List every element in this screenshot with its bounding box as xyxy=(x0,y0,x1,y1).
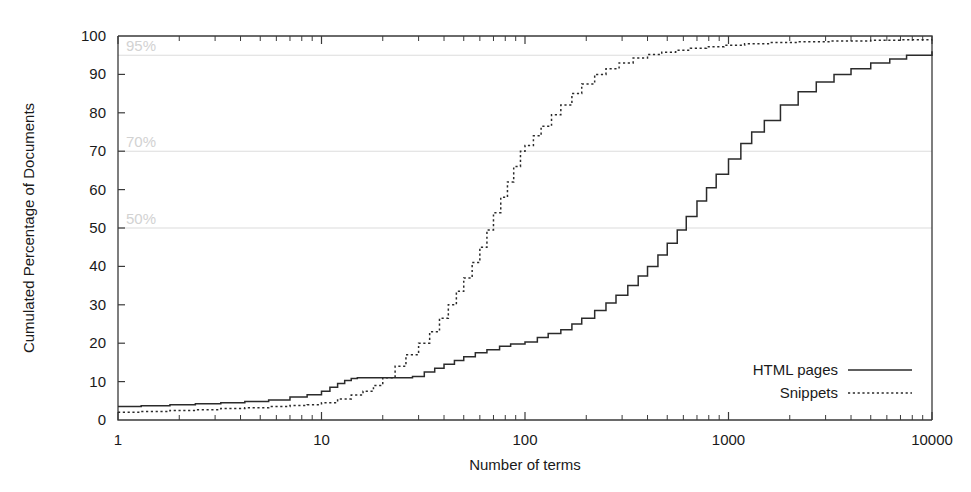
x-tick-label-1000: 1000 xyxy=(712,431,745,448)
y-tick-label-70: 70 xyxy=(89,142,106,159)
annotation-label-70: 70% xyxy=(126,133,156,150)
y-tick-label-10: 10 xyxy=(89,373,106,390)
y-tick-label-30: 30 xyxy=(89,296,106,313)
x-tick-label-100: 100 xyxy=(512,431,537,448)
x-tick-label-1: 1 xyxy=(114,431,122,448)
y-tick-label-90: 90 xyxy=(89,65,106,82)
legend-label-html-pages: HTML pages xyxy=(753,361,838,378)
y-axis-title: Cumulated Percentage of Documents xyxy=(20,103,37,353)
y-tick-label-40: 40 xyxy=(89,257,106,274)
annotation-label-50: 50% xyxy=(126,210,156,227)
y-tick-label-20: 20 xyxy=(89,334,106,351)
x-axis-title: Number of terms xyxy=(469,456,581,473)
x-tick-label-10000: 10000 xyxy=(911,431,953,448)
y-tick-label-100: 100 xyxy=(81,27,106,44)
x-tick-label-10: 10 xyxy=(313,431,330,448)
legend-label-snippets: Snippets xyxy=(780,384,838,401)
y-tick-label-80: 80 xyxy=(89,104,106,121)
y-tick-label-50: 50 xyxy=(89,219,106,236)
annotation-label-95: 95% xyxy=(126,37,156,54)
cumulated-percentage-chart: 0102030405060708090100 110100100010000 9… xyxy=(0,0,971,492)
y-tick-label-60: 60 xyxy=(89,181,106,198)
chart-figure: 0102030405060708090100 110100100010000 9… xyxy=(0,0,971,492)
y-tick-label-0: 0 xyxy=(98,411,106,428)
